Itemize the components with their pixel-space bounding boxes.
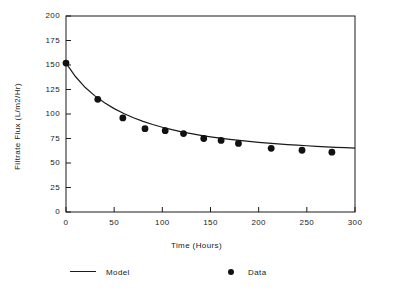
legend-entry-model: Model [70, 268, 130, 277]
legend-entry-data: Data [228, 268, 267, 277]
data-point [268, 145, 275, 152]
model-curve [66, 63, 355, 148]
y-tick-label: 50 [32, 158, 60, 167]
y-tick-label: 25 [32, 183, 60, 192]
y-tick-label: 150 [32, 60, 60, 69]
data-point [162, 127, 169, 134]
data-point [235, 140, 242, 147]
axes-frame [66, 16, 355, 212]
dot-marker-icon [228, 269, 234, 275]
legend-label-data: Data [248, 268, 267, 277]
data-point [299, 147, 306, 154]
data-markers [63, 60, 336, 156]
data-point [94, 96, 101, 103]
data-point [328, 149, 335, 156]
x-tick-label: 250 [292, 218, 322, 227]
y-tick-label: 75 [32, 134, 60, 143]
y-axis-title: Filtrate Flux (L/m2/Hr) [13, 52, 22, 202]
data-point [218, 137, 225, 144]
y-tick-label: 125 [32, 85, 60, 94]
x-tick-label: 50 [99, 218, 129, 227]
chart-figure: Filtrate Flux (L/m2/Hr) Time (Hours) 025… [0, 0, 393, 293]
data-point [119, 115, 126, 122]
x-tick-label: 150 [196, 218, 226, 227]
y-tick-label: 200 [32, 11, 60, 20]
x-axis-ticks [66, 207, 355, 212]
x-tick-label: 200 [244, 218, 274, 227]
x-tick-label: 300 [340, 218, 370, 227]
y-tick-label: 0 [32, 207, 60, 216]
y-tick-label: 100 [32, 109, 60, 118]
line-swatch-icon [70, 271, 96, 272]
y-axis-ticks [66, 16, 71, 212]
data-point [200, 135, 207, 142]
y-tick-label: 175 [32, 36, 60, 45]
x-tick-label: 0 [51, 218, 81, 227]
legend-label-model: Model [106, 268, 130, 277]
x-axis-title: Time (Hours) [0, 241, 393, 250]
data-point [142, 125, 149, 132]
x-tick-label: 100 [147, 218, 177, 227]
data-point [63, 60, 70, 67]
chart-legend: Model Data [0, 268, 393, 282]
data-point [180, 130, 187, 137]
